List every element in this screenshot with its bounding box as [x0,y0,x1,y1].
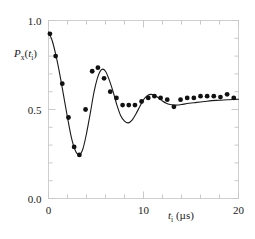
data-point [53,54,58,59]
frame-border [49,21,239,199]
y-tick-label: 1.0 [28,15,42,27]
data-point [48,31,53,36]
data-point [225,92,230,97]
data-point [158,96,163,101]
x-tick-label: 0 [46,204,52,216]
x-axis-label: ti (µs) [168,209,194,224]
data-point [60,81,65,86]
data-point [83,107,88,112]
data-point [96,65,101,70]
data-point [114,96,119,101]
data-point [102,76,107,81]
damped-oscillation-chart: 010200.00.51.0 Px(ti) ti (µs) [0,0,255,239]
x-tick-label: 10 [138,204,150,216]
data-point [191,96,196,101]
data-point [72,144,77,149]
data-point [198,94,203,99]
x-tick-label: 20 [233,204,245,216]
data-point [185,96,190,101]
data-point [178,97,183,102]
fit-curve [49,32,239,155]
data-point [133,103,138,108]
data-point [211,94,216,99]
data-point [90,69,95,74]
data-points [48,31,237,157]
data-point [126,103,131,108]
data-point [165,97,170,102]
figure-container: 010200.00.51.0 Px(ti) ti (µs) [0,0,255,239]
data-point [231,96,236,101]
data-point [108,89,113,94]
data-point [66,115,71,120]
data-point [205,94,210,99]
y-tick-label: 0.5 [28,104,42,116]
y-tick-label: 0.0 [28,193,42,205]
data-point [120,103,125,108]
data-point [146,96,151,101]
plot-frame [49,21,239,199]
y-axis-label: Px(ti) [13,47,37,62]
data-point [218,95,223,100]
axis-tick-labels: 010200.00.51.0 [28,15,245,216]
data-point [139,99,144,104]
data-point [172,104,177,109]
data-point [152,94,157,99]
data-point [77,152,82,157]
axis-ticks [49,21,239,199]
